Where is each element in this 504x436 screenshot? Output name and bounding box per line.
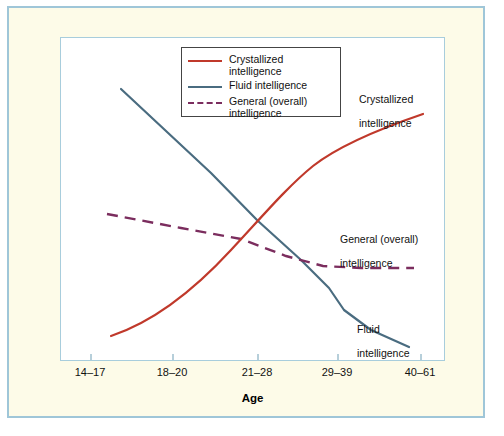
annotation-fluid-line2: intelligence: [357, 347, 410, 359]
x-tick-label-0: 14–17: [60, 366, 120, 378]
legend-item-general-intelligence: General (overall) intelligence: [188, 96, 334, 119]
annotation-fluid-intelligence: Fluid intelligence: [357, 311, 410, 371]
x-tick-label-4: 40–61: [390, 366, 450, 378]
annotation-crystallized-intelligence: Crystallized intelligence: [359, 81, 413, 141]
legend-item-fluid-intelligence: Fluid intelligence: [188, 80, 334, 93]
legend-label-general-line1: General (overall): [229, 95, 307, 107]
legend-swatch-crystallized-icon: [188, 54, 222, 67]
annotation-crystallized-line2: intelligence: [359, 117, 413, 129]
annotation-general-intelligence: General (overall) intelligence: [340, 221, 418, 281]
legend-label-general-line2: intelligence: [229, 107, 282, 119]
plot-panel: Crystallized intelligence General (overa…: [60, 37, 445, 361]
legend-item-crystallized-intelligence: Crystallized intelligence: [188, 54, 334, 77]
legend-label-general: General (overall) intelligence: [229, 96, 307, 119]
legend-swatch-fluid-icon: [188, 80, 222, 93]
legend-label-crystallized: Crystallized intelligence: [229, 54, 334, 77]
x-tick-label-1: 18–20: [142, 366, 202, 378]
legend-swatch-general-icon: [188, 96, 222, 109]
annotation-fluid-line1: Fluid: [357, 323, 410, 335]
legend-label-fluid: Fluid intelligence: [229, 80, 307, 92]
x-axis-title: Age: [60, 392, 445, 404]
annotation-crystallized-line1: Crystallized: [359, 93, 413, 105]
figure-root: Crystallized intelligence General (overa…: [0, 0, 504, 436]
chart-legend: Crystallized intelligence Fluid intellig…: [181, 47, 341, 117]
annotation-general-line1: General (overall): [340, 233, 418, 245]
x-tick-label-3: 29–39: [307, 366, 367, 378]
annotation-general-line2: intelligence: [340, 257, 418, 269]
x-tick-label-2: 21–28: [227, 366, 287, 378]
